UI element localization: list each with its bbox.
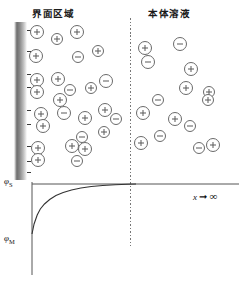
cation-bulk-14 <box>206 138 220 152</box>
sign-horizontal-stroke <box>145 62 151 63</box>
anion-bulk-1 <box>173 37 187 51</box>
anion-interfacial-25 <box>76 131 88 143</box>
anion-bulk-6 <box>152 94 164 106</box>
sign-vertical-stroke <box>37 89 38 95</box>
sign-vertical-stroke <box>213 142 214 148</box>
cation-interfacial-1 <box>51 33 63 45</box>
anion-interfacial-18 <box>110 113 122 125</box>
sign-horizontal-stroke <box>75 57 81 58</box>
sign-vertical-stroke <box>85 146 86 152</box>
potential-profile-plot <box>0 172 239 282</box>
sign-vertical-stroke <box>85 115 86 121</box>
arrow-right-icon: ➞ <box>199 191 207 202</box>
sign-vertical-stroke <box>191 66 192 72</box>
anion-interfacial-4 <box>72 51 84 63</box>
cation-bulk-7 <box>202 94 214 106</box>
x-axis-label: x ➞ ∞ <box>193 190 217 202</box>
cation-interfacial-14 <box>36 119 50 133</box>
potential-curve <box>32 184 136 234</box>
sign-vertical-stroke <box>77 29 78 35</box>
sign-horizontal-stroke <box>177 44 183 45</box>
bulk-solution-label: 本体溶液 <box>148 6 190 20</box>
anion-bulk-13 <box>193 142 205 154</box>
phi-m-axis-label: φM <box>4 233 15 245</box>
phi-s-axis-label: φS <box>4 176 13 188</box>
sign-horizontal-stroke <box>74 161 80 162</box>
cation-bulk-12 <box>134 136 148 150</box>
sign-vertical-stroke <box>98 48 99 54</box>
cation-interfacial-16 <box>78 111 92 125</box>
sign-vertical-stroke <box>38 157 39 163</box>
sign-vertical-stroke <box>41 111 42 117</box>
infinity-symbol: ∞ <box>210 190 218 202</box>
phi-s-subscript: S <box>9 181 13 188</box>
sign-horizontal-stroke <box>196 148 202 149</box>
anion-bulk-11 <box>154 130 166 142</box>
cation-interfacial-0 <box>30 25 44 39</box>
cation-bulk-3 <box>184 62 198 76</box>
sign-horizontal-stroke <box>79 137 85 138</box>
cation-interfacial-3 <box>29 49 43 63</box>
cation-bulk-9 <box>168 112 182 126</box>
cation-bulk-8 <box>136 106 150 120</box>
sign-horizontal-stroke <box>157 136 163 137</box>
cation-interfacial-7 <box>51 72 65 86</box>
sign-vertical-stroke <box>175 116 176 122</box>
cation-interfacial-2 <box>70 25 84 39</box>
cation-bulk-0 <box>138 41 152 55</box>
metal-electrode <box>14 22 27 180</box>
cation-interfacial-23 <box>78 142 92 156</box>
cation-interfacial-12 <box>53 93 67 107</box>
anion-interfacial-15 <box>57 106 71 120</box>
sign-horizontal-stroke <box>113 119 119 120</box>
sign-horizontal-stroke <box>67 90 73 91</box>
surface-negative-charge-5 <box>27 124 31 125</box>
sign-vertical-stroke <box>143 110 144 116</box>
cation-interfacial-8 <box>30 85 44 99</box>
sign-horizontal-stroke <box>103 81 109 82</box>
sign-vertical-stroke <box>104 129 105 135</box>
sign-vertical-stroke <box>145 45 146 51</box>
sign-vertical-stroke <box>37 77 38 83</box>
double-layer-diagram: 界面区域 本体溶液 φS φM x ➞ ∞ <box>0 0 239 282</box>
sign-vertical-stroke <box>72 143 73 149</box>
sign-vertical-stroke <box>208 97 209 103</box>
anion-interfacial-11 <box>99 74 113 88</box>
anion-bulk-2 <box>141 55 155 69</box>
sign-vertical-stroke <box>43 123 44 129</box>
interfacial-region-label: 界面区域 <box>32 6 74 20</box>
sign-vertical-stroke <box>60 97 61 103</box>
sign-vertical-stroke <box>58 76 59 82</box>
sign-vertical-stroke <box>57 36 58 42</box>
cation-bulk-4 <box>179 81 193 95</box>
sign-vertical-stroke <box>105 107 106 113</box>
anion-interfacial-24 <box>71 155 83 167</box>
sign-vertical-stroke <box>38 145 39 151</box>
cation-interfacial-5 <box>92 45 104 57</box>
sign-horizontal-stroke <box>187 126 193 127</box>
cation-interfacial-21 <box>31 153 45 167</box>
phi-m-subscript: M <box>9 238 15 245</box>
sign-vertical-stroke <box>36 53 37 59</box>
sign-horizontal-stroke <box>61 113 67 114</box>
anion-interfacial-9 <box>64 84 76 96</box>
sign-vertical-stroke <box>37 29 38 35</box>
cation-interfacial-19 <box>98 126 110 138</box>
cation-interfacial-10 <box>85 82 97 94</box>
anion-bulk-10 <box>184 120 196 132</box>
sign-vertical-stroke <box>91 85 92 91</box>
sign-horizontal-stroke <box>155 100 161 101</box>
sign-vertical-stroke <box>186 85 187 91</box>
sign-vertical-stroke <box>141 140 142 146</box>
surface-negative-charge-4 <box>27 110 31 111</box>
